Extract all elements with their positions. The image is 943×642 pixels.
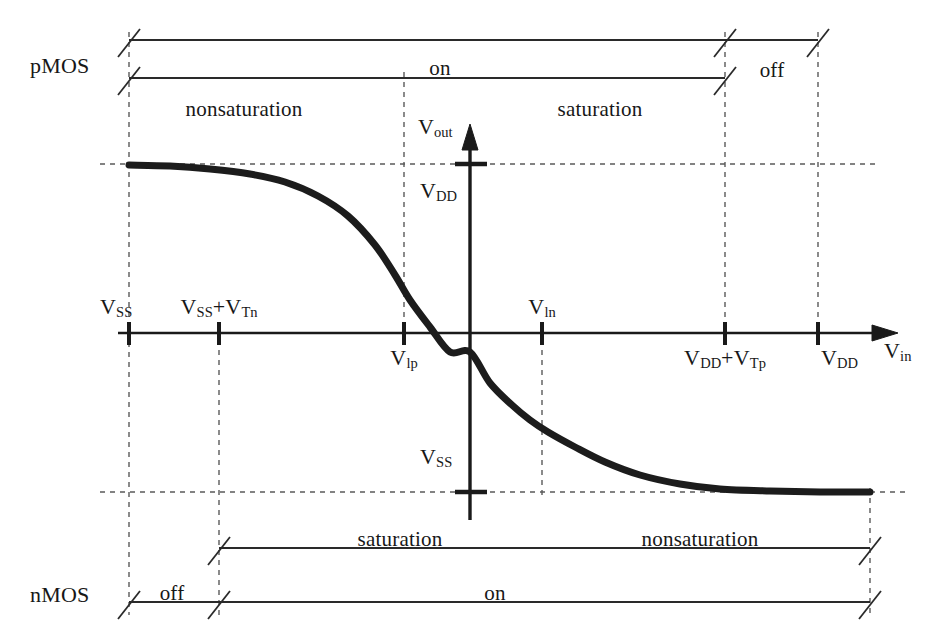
- pmos-region-saturation-label: saturation: [558, 99, 643, 120]
- nmos-device-label: nMOS: [30, 584, 90, 606]
- y-level-label-vss: VSS: [420, 446, 452, 470]
- x-tick-label-vss: VSS: [100, 296, 132, 320]
- pmos-bracket-endcaps: [118, 29, 829, 95]
- endcap-pmos-inner-end: [714, 67, 736, 95]
- vtc-diagram-svg: [0, 0, 943, 642]
- pmos-device-label: pMOS: [30, 55, 90, 77]
- x-axis: [118, 325, 898, 341]
- x-tick-label-vln: Vln: [528, 296, 555, 320]
- endcap-nmos-outer-end: [859, 591, 881, 619]
- y-axis: [462, 124, 478, 520]
- pmos-brackets: [118, 29, 829, 95]
- nmos-bracket-endcaps: [118, 537, 881, 619]
- vtc-curve: [129, 165, 870, 492]
- y-axis-arrowhead: [462, 124, 478, 150]
- pmos-off-label: off: [760, 60, 785, 81]
- nmos-on-label: on: [484, 583, 505, 604]
- nmos-region-saturation-label: saturation: [358, 529, 443, 550]
- x-axis-label: Vin: [884, 340, 911, 364]
- y-axis-label: Vout: [418, 116, 453, 140]
- nmos-off-label: off: [160, 583, 185, 604]
- endcap-pmos-inner-start: [118, 67, 140, 95]
- x-tick-label-vss-vtn: VSS+VTn: [180, 296, 257, 320]
- x-tick-label-vdd: VDD: [821, 347, 858, 371]
- pmos-region-nonsaturation-label: nonsaturation: [186, 99, 303, 120]
- x-tick-label-vlp: Vlp: [390, 347, 417, 371]
- pmos-on-label: on: [429, 58, 450, 79]
- figure-canvas: pMOS nMOS on off nonsaturation saturatio…: [0, 0, 943, 642]
- y-level-label-vdd: VDD: [420, 180, 457, 204]
- x-tick-label-vdd-vtp: VDD+VTp: [684, 347, 766, 371]
- nmos-brackets: [118, 537, 881, 619]
- nmos-region-nonsaturation-label: nonsaturation: [642, 529, 759, 550]
